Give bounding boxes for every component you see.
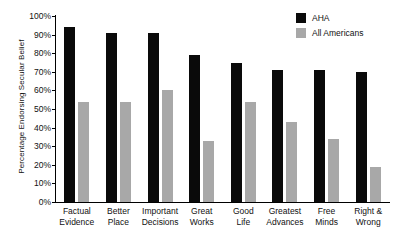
bar-group <box>145 16 176 202</box>
bar-group <box>186 16 217 202</box>
y-axis-title: Percentage Endorsing Secular Belief <box>17 12 26 202</box>
y-tick-mark <box>52 109 56 110</box>
bar-group <box>228 16 259 202</box>
x-axis-label: Right &Wrong <box>341 206 395 228</box>
bar-group <box>103 16 134 202</box>
bar-aha[interactable] <box>189 55 200 202</box>
y-tick-mark <box>52 90 56 91</box>
legend-item-all-americans: All Americans <box>296 28 364 38</box>
x-axis-line <box>55 202 390 203</box>
y-tick-mark <box>52 128 56 129</box>
legend-swatch-icon <box>296 13 306 23</box>
bar-all-americans[interactable] <box>328 139 339 202</box>
y-tick-mark <box>52 72 56 73</box>
legend-item-aha: AHA <box>296 13 364 23</box>
plot-area: 100%90%80%70%60%50%40%30%20%10%0% <box>56 16 389 202</box>
legend-swatch-icon <box>296 28 306 38</box>
y-tick-mark <box>52 146 56 147</box>
y-tick-mark <box>52 183 56 184</box>
y-tick-mark <box>52 202 56 203</box>
bar-aha[interactable] <box>64 27 75 202</box>
bar-aha[interactable] <box>356 72 367 202</box>
bar-all-americans[interactable] <box>162 90 173 202</box>
x-axis-label-line: Right & <box>341 206 395 217</box>
x-axis-label-line: Wrong <box>341 217 395 228</box>
bar-all-americans[interactable] <box>286 122 297 202</box>
bar-aha[interactable] <box>148 33 159 202</box>
y-tick-mark <box>52 35 56 36</box>
y-tick-mark <box>52 165 56 166</box>
bar-aha[interactable] <box>106 33 117 202</box>
bar-all-americans[interactable] <box>120 102 131 202</box>
bar-aha[interactable] <box>314 70 325 202</box>
legend-label: All Americans <box>312 28 364 38</box>
bar-all-americans[interactable] <box>203 141 214 202</box>
bar-all-americans[interactable] <box>370 167 381 202</box>
bar-all-americans[interactable] <box>245 102 256 202</box>
legend-label: AHA <box>312 13 329 23</box>
bar-group <box>311 16 342 202</box>
bar-chart: Percentage Endorsing Secular Belief 100%… <box>0 0 395 243</box>
bar-all-americans[interactable] <box>78 102 89 202</box>
y-tick-mark <box>52 16 56 17</box>
bar-aha[interactable] <box>231 63 242 203</box>
bar-group <box>269 16 300 202</box>
chart-legend: AHA All Americans <box>296 13 364 43</box>
bar-aha[interactable] <box>272 70 283 202</box>
bar-group <box>353 16 384 202</box>
y-tick-mark <box>52 53 56 54</box>
bar-group <box>61 16 92 202</box>
